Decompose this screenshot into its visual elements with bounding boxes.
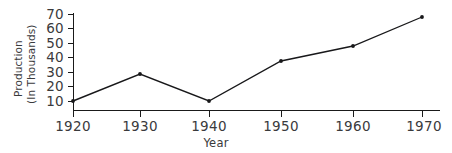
x-axis: 1920 1930 1940 1950 1960 1970 (55, 111, 442, 135)
y-axis-title-line1: Production (12, 40, 24, 97)
y-tick-label-10: 10 (46, 93, 64, 109)
x-axis-title: Year (202, 136, 228, 150)
data-point-1960 (351, 44, 355, 48)
y-axis-title-line2: (In Thousands) (25, 24, 37, 104)
chart-canvas: 70 60 50 40 30 20 10 Production (In Thou… (0, 0, 452, 153)
y-tick-label-40: 40 (46, 49, 64, 65)
x-tick-label-1970: 1970 (406, 118, 442, 134)
y-tick-label-60: 60 (46, 20, 64, 36)
x-tick-label-1920: 1920 (55, 118, 91, 134)
x-tick-label-1930: 1930 (122, 118, 158, 134)
data-point-1940 (207, 99, 211, 103)
x-tick-label-1940: 1940 (191, 118, 227, 134)
data-point-1970 (420, 15, 424, 19)
data-point-1950 (279, 59, 283, 63)
series-line-production (73, 17, 422, 101)
x-tick-label-1960: 1960 (335, 118, 371, 134)
x-tick-label-1950: 1950 (263, 118, 299, 134)
y-tick-label-20: 20 (46, 78, 64, 94)
data-series-production (71, 15, 424, 103)
y-axis: 70 60 50 40 30 20 10 (46, 6, 73, 111)
line-chart-figure: 70 60 50 40 30 20 10 Production (In Thou… (0, 0, 452, 153)
y-axis-title: Production (In Thousands) (12, 24, 37, 104)
data-point-1920 (71, 99, 75, 103)
data-point-1930 (138, 72, 142, 76)
